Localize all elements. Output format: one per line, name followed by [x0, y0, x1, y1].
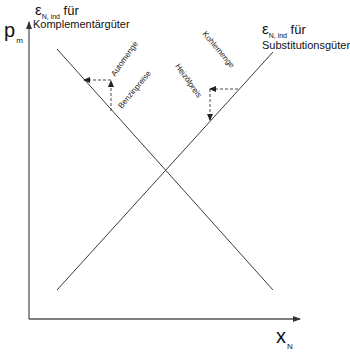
for-word: für — [64, 3, 79, 18]
epsilon-symbol: ε — [262, 20, 269, 37]
x-axis-label: xN — [276, 326, 293, 346]
x-axis-symbol: x — [276, 325, 286, 347]
x-axis-subscript: N — [287, 342, 293, 351]
y-axis-subscript: m — [16, 36, 23, 45]
complements-elasticity-label: εN, ind für — [35, 2, 79, 17]
epsilon-symbol: ε — [35, 1, 42, 18]
substitutes-title: Substitutionsgüter — [262, 40, 350, 51]
for-word: für — [291, 22, 306, 37]
y-axis-label: pm — [4, 20, 23, 40]
substitutes-elasticity-label: εN, ind für — [262, 21, 306, 36]
epsilon-subscript: N, ind — [269, 32, 287, 39]
y-axis-symbol: p — [4, 19, 15, 41]
complements-title: Komplementärgüter — [33, 19, 130, 30]
